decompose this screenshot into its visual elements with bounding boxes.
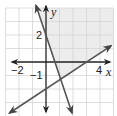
y-axis-label: y [50,5,57,19]
y-tick-label-neg1: −1 [30,69,43,81]
coordinate-graph: y x 2 −1 −2 4 [0,0,117,116]
x-axis-label: x [105,65,112,79]
y-tick-label-2: 2 [36,29,42,41]
x-tick-label-4: 4 [96,64,102,76]
x-tick-label-neg2: −2 [11,64,24,76]
